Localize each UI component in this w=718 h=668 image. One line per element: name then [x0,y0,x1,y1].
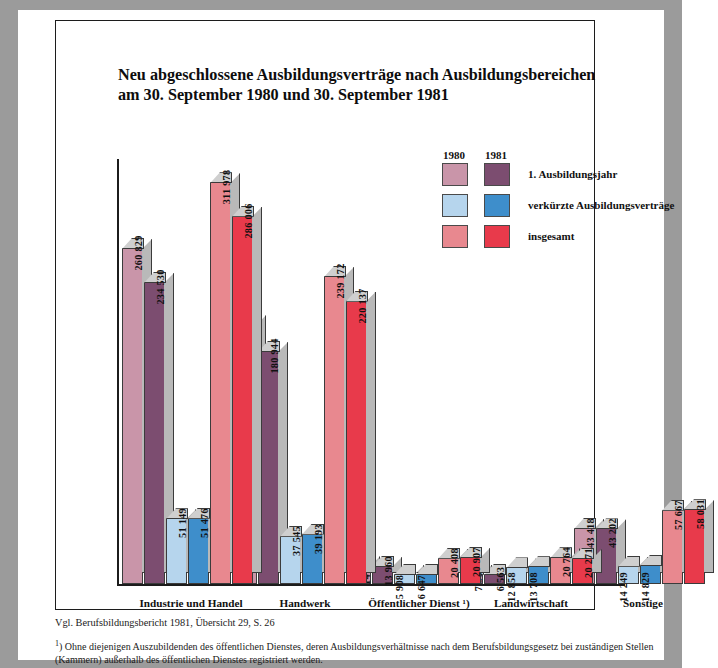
bar-value-label: 20 764 [561,547,572,577]
footnote-text: ) Ohne diejenigen Auszubildenden des öff… [55,641,653,664]
bar-value-label: 43 418 [585,518,596,548]
bar: 6 563 [484,574,505,584]
bar-value-label: 37 545 [291,526,302,556]
bar: 5 908 [394,574,415,584]
bar-value-label: 311 978 [221,170,232,205]
category-label: Sonstige [560,597,718,609]
bar-value-label: 51 149 [177,508,188,538]
plot-area: 260 829234 53051 14951 476311 978286 006… [96,41,632,601]
bar-top-face [528,556,550,567]
bar-value-label: 260 829 [133,235,144,270]
bar-value-label: 58 031 [695,499,706,529]
bar-value-label: 5 908 [394,575,405,599]
bar-side-face [366,292,376,574]
chart-card: Neu abgeschlossene Ausbildungsverträge n… [55,20,595,610]
bar-value-label: 234 530 [155,269,166,304]
bar: 37 545 [280,536,301,584]
bar: 239 172 [324,276,345,584]
bar-value-label: 220 137 [357,288,368,323]
bar: 20 408 [438,558,459,584]
bar: 51 149 [166,518,187,584]
bar-value-label: 43 202 [607,518,618,548]
bar: 39 193 [302,534,323,584]
bar: 13 708 [528,566,549,584]
bar-top-face [416,564,438,575]
bar-value-label: 13 960 [383,556,394,586]
bar-side-face [252,207,262,573]
bar-top-face [506,557,528,568]
bar: 220 137 [346,301,367,585]
bar-value-label: 20 907 [471,547,482,577]
bar: 58 031 [684,509,705,584]
bar-value-label: 39 193 [313,524,324,554]
bar: 20 271 [572,558,593,584]
bar: 12 858 [506,567,527,584]
bar-value-label: 286 006 [243,203,254,238]
bar: 57 667 [662,510,683,584]
bar-value-label: 6 647 [416,575,427,599]
bar: 20 764 [550,557,571,584]
bar-value-label: 20 271 [583,548,594,578]
bar-value-label: 14 829 [640,572,651,602]
bar: 51 476 [188,518,209,584]
bar-value-label: 239 172 [335,263,346,298]
bar-value-label: 180 944 [269,338,280,373]
bar: 14 249 [618,566,639,584]
bar: 14 829 [640,565,661,584]
bar: 260 829 [122,248,143,584]
bar: 6 647 [416,574,437,584]
footnote: 1) Ohne diejenigen Auszubildenden des öf… [55,638,655,666]
y-axis-line [117,159,119,584]
bar-value-label: 57 667 [673,500,684,530]
bar-value-label: 13 708 [528,572,539,602]
bar-value-label: 14 249 [618,572,629,602]
bar-top-face [640,555,662,566]
bar-value-label: 51 476 [199,508,210,538]
bar-value-label: 20 408 [449,548,460,578]
bar: 286 006 [232,216,253,584]
bar: 234 530 [144,282,165,584]
bar: 311 978 [210,182,231,584]
bar-value-label: 12 858 [506,572,517,602]
page-sheet: Schaubild 1 Neu abgeschlossene Ausbildun… [18,10,664,660]
bar-value-label: 6 563 [495,567,506,591]
bar: 20 907 [460,557,481,584]
source-note: Vgl. Berufsbildungsbericht 1981, Übersic… [55,617,275,628]
